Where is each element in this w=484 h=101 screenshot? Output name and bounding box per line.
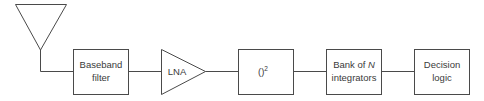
integrator-bank-label-line1: Bank of N	[333, 59, 375, 70]
baseband-filter-block: Baseband filter	[74, 50, 129, 95]
decision-logic-block: Decision logic	[415, 50, 470, 95]
integrator-bank-label-line2: integrators	[332, 72, 377, 83]
square-law-box	[239, 50, 294, 95]
integrator-bank-block: Bank of N integrators	[327, 50, 382, 95]
square-law-block: ()2	[239, 50, 294, 95]
baseband-filter-label-line2: filter	[92, 72, 110, 83]
decision-logic-label-line1: Decision	[424, 59, 460, 70]
antenna-icon	[16, 5, 67, 51]
lna-block: LNA	[162, 50, 206, 95]
baseband-filter-label-line1: Baseband	[80, 59, 123, 70]
connector-antenna-filter	[41, 50, 74, 72]
receiver-block-diagram: Baseband filter LNA ()2 Bank of N integr…	[0, 0, 484, 101]
lna-label: LNA	[168, 66, 187, 77]
decision-logic-label-line2: logic	[432, 72, 452, 83]
